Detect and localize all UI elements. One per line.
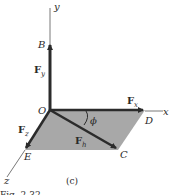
- x-axis-label: x: [163, 106, 169, 117]
- z-axis-label: z: [3, 175, 10, 186]
- force-component-diagram: y x z B O D C E Fy Fx Fz Fh ϕ (c) Fig. 2…: [0, 0, 179, 195]
- angle-phi-label: ϕ: [90, 115, 97, 126]
- point-d-label: D: [144, 115, 153, 126]
- fz-label: Fz: [18, 124, 29, 138]
- figure-caption: (c): [66, 176, 78, 186]
- fx-label: Fx: [127, 95, 138, 109]
- fy-label: Fy: [34, 64, 46, 78]
- z-axis: [7, 150, 25, 177]
- y-axis-label: y: [53, 1, 60, 12]
- point-c-label: C: [120, 149, 128, 160]
- figure-label: Fig. 2.32: [0, 190, 41, 195]
- point-o-label: O: [38, 105, 46, 116]
- point-b-label: B: [37, 39, 45, 50]
- point-e-label: E: [23, 151, 32, 162]
